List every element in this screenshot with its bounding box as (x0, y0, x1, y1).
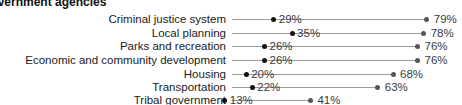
low-value-label: 29% (279, 12, 302, 26)
category-label: Housing (184, 67, 226, 81)
low-value-label: 35% (297, 26, 320, 40)
low-value-label: 26% (270, 39, 293, 53)
high-value-label: 68% (400, 67, 423, 81)
connector-line (232, 60, 418, 61)
category-label: Local planning (152, 26, 226, 40)
category-label: Tribal government (134, 93, 226, 105)
chart-row: Transportation22%63% (0, 80, 462, 94)
low-value-dot (250, 85, 255, 90)
low-value-label: 22% (257, 80, 280, 94)
low-value-dot (222, 98, 227, 103)
chart-row: Parks and recreation26%76% (0, 39, 462, 53)
high-value-dot (391, 72, 396, 77)
high-value-label: 76% (425, 39, 448, 53)
high-value-label: 76% (425, 53, 448, 67)
high-value-label: 78% (431, 26, 454, 40)
low-value-dot (262, 44, 267, 49)
high-value-dot (421, 31, 426, 36)
chart-title: Government agencies (0, 0, 106, 9)
low-value-dot (244, 72, 249, 77)
category-label: Economic and community development (25, 53, 226, 67)
category-label: Parks and recreation (120, 39, 226, 53)
chart-row: Criminal justice system29%79% (0, 12, 462, 26)
low-value-label: 26% (270, 53, 293, 67)
connector-line (232, 33, 424, 34)
low-value-dot (262, 58, 267, 63)
high-value-label: 63% (385, 80, 408, 94)
low-value-dot (271, 17, 276, 22)
chart-row: Housing20%68% (0, 67, 462, 81)
high-value-label: 79% (434, 12, 457, 26)
low-value-label: 13% (230, 93, 253, 105)
low-value-label: 20% (251, 67, 274, 81)
connector-line (232, 46, 418, 47)
high-value-dot (415, 58, 420, 63)
connector-line (232, 19, 427, 20)
category-label: Criminal justice system (108, 12, 226, 26)
category-label: Transportation (152, 80, 226, 94)
high-value-dot (375, 85, 380, 90)
high-value-dot (424, 17, 429, 22)
low-value-dot (290, 31, 295, 36)
high-value-label: 41% (317, 93, 340, 105)
chart-row: Local planning35%78% (0, 26, 462, 40)
high-value-dot (415, 44, 420, 49)
high-value-dot (308, 98, 313, 103)
chart-row: Tribal government13%41% (0, 93, 462, 105)
chart-row: Economic and community development26%76% (0, 53, 462, 67)
